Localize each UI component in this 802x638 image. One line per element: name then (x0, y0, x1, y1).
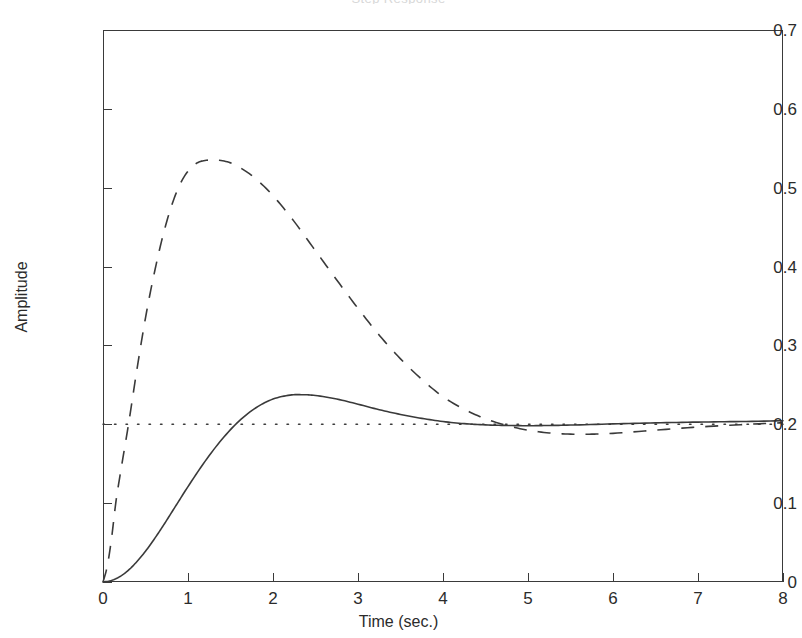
y-tick-label: 0.6 (751, 101, 797, 118)
y-tickmark (103, 345, 112, 346)
figure-title: Step Response (0, 0, 797, 4)
y-tickmark (103, 424, 112, 425)
x-tickmark (698, 573, 699, 582)
y-tickmark (103, 503, 112, 504)
y-tick-label: 0.7 (751, 22, 797, 39)
x-tickmark (443, 573, 444, 582)
y-axis-label: Amplitude (13, 227, 31, 367)
x-tickmark (273, 573, 274, 582)
y-tick-label: 0.2 (751, 416, 797, 433)
x-tickmark (613, 573, 614, 582)
x-tickmark (188, 573, 189, 582)
series-solid-response (103, 395, 783, 582)
y-tickmark (103, 109, 112, 110)
y-tick-label: 0.3 (751, 337, 797, 354)
x-tickmark (358, 573, 359, 582)
series-dashed-overshoot (103, 160, 783, 582)
x-tick-label: 1 (168, 590, 208, 608)
series-group (103, 160, 783, 582)
x-tick-label: 0 (83, 590, 123, 608)
y-tickmark (103, 582, 112, 583)
x-tick-label: 7 (678, 590, 718, 608)
y-tickmark (103, 30, 112, 31)
y-tick-label: 0.4 (751, 259, 797, 276)
plot-curves (103, 30, 783, 582)
x-axis-label: Time (sec.) (0, 613, 797, 631)
x-tick-label: 2 (253, 590, 293, 608)
x-tickmark (103, 573, 104, 582)
y-tickmark (103, 188, 112, 189)
x-tick-label: 3 (338, 590, 378, 608)
x-tickmark (783, 573, 784, 582)
x-tick-label: 8 (763, 590, 802, 608)
y-tick-label: 0.1 (751, 495, 797, 512)
y-tick-label: 0.5 (751, 180, 797, 197)
y-tick-label: 0 (751, 574, 797, 591)
x-tickmark (528, 573, 529, 582)
y-tickmark (103, 267, 112, 268)
x-tick-label: 6 (593, 590, 633, 608)
x-tick-label: 4 (423, 590, 463, 608)
x-tick-label: 5 (508, 590, 548, 608)
